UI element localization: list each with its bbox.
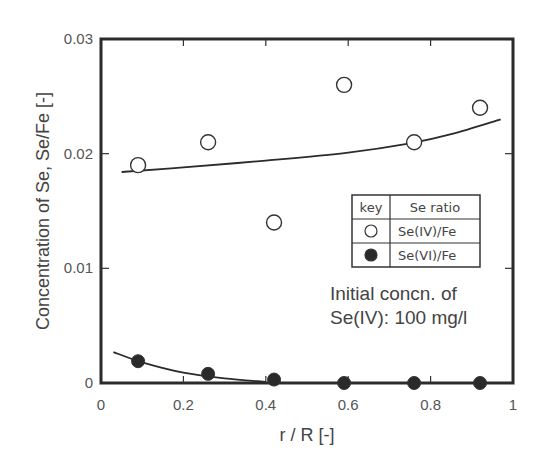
x-tick-label: 0.2 [173, 396, 194, 413]
filled-circle-marker [132, 355, 145, 368]
open-circle-icon [365, 225, 377, 237]
legend-label: Se(IV)/Fe [398, 224, 456, 239]
y-axis-title: Concentration of Se, Se/Fe [-] [33, 92, 53, 330]
filled-circle-marker [202, 367, 215, 380]
x-tick-label: 0 [97, 396, 105, 413]
legend-header-key: key [360, 200, 383, 215]
fit-curve [122, 119, 501, 172]
legend-header-ratio: Se ratio [410, 200, 460, 215]
open-circle-marker [131, 158, 146, 173]
open-circle-marker [337, 77, 352, 92]
x-tick-label: 0.6 [338, 396, 359, 413]
filled-circle-marker [474, 377, 487, 390]
x-tick-label: 1 [509, 396, 517, 413]
annotation: Initial concn. ofSe(IV): 100 mg/l [330, 283, 467, 328]
legend: keySe ratioSe(IV)/FeSe(VI)/Fe [352, 195, 480, 267]
y-tick-label: 0.02 [64, 145, 93, 162]
open-circle-marker [201, 135, 216, 150]
x-tick-label: 0.4 [255, 396, 276, 413]
annotation-line: Se(IV): 100 mg/l [330, 307, 467, 328]
chart: 00.20.40.60.8100.010.020.03 keySe ratioS… [0, 0, 541, 456]
filled-circle-icon [365, 249, 377, 261]
open-circle-marker [407, 135, 422, 150]
x-axis-title: r / R [-] [280, 425, 335, 445]
open-circle-marker [267, 215, 282, 230]
y-tick-label: 0.03 [64, 30, 93, 47]
y-tick-label: 0 [85, 374, 93, 391]
x-tick-label: 0.8 [420, 396, 441, 413]
filled-circle-marker [408, 377, 421, 390]
annotation-line: Initial concn. of [330, 283, 457, 304]
filled-circle-marker [338, 377, 351, 390]
filled-circle-marker [268, 373, 281, 386]
legend-label: Se(VI)/Fe [398, 248, 456, 263]
open-circle-marker [473, 100, 488, 115]
y-tick-label: 0.01 [64, 259, 93, 276]
